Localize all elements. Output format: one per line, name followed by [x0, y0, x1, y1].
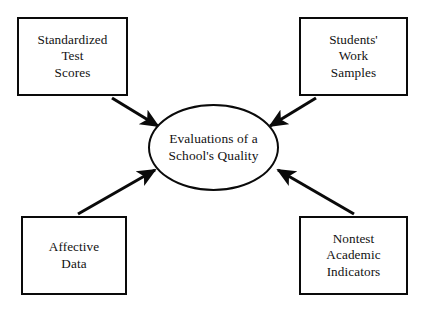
- node-label-center-evaluations: Evaluations of a School's Quality: [169, 131, 259, 165]
- arrow-bottom-right-to-center: [278, 170, 354, 214]
- arrow-top-left-to-center: [112, 98, 158, 126]
- node-center-evaluations: Evaluations of a School's Quality: [148, 104, 279, 191]
- node-label-students-work-samples: Students' Work Samples: [329, 32, 378, 80]
- arrow-top-right-to-center: [270, 98, 316, 126]
- node-label-standardized-test-scores: Standardized Test Scores: [37, 32, 107, 80]
- arrow-bottom-left-to-center: [78, 170, 155, 214]
- node-affective-data: Affective Data: [21, 216, 127, 295]
- node-standardized-test-scores: Standardized Test Scores: [17, 17, 128, 96]
- diagram-canvas: Standardized Test Scores Students' Work …: [0, 0, 427, 311]
- node-label-nontest-academic-indicators: Nontest Academic Indicators: [326, 231, 380, 279]
- node-label-affective-data: Affective Data: [49, 239, 99, 271]
- node-students-work-samples: Students' Work Samples: [299, 17, 408, 96]
- node-nontest-academic-indicators: Nontest Academic Indicators: [299, 216, 408, 295]
